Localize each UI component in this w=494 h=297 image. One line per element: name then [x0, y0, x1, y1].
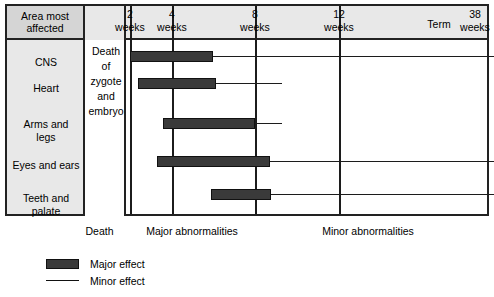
- major-effect-bar-teeth-and-palate: [211, 189, 271, 200]
- row-label-heart: Heart: [7, 82, 85, 95]
- tick-number: 38: [447, 8, 494, 21]
- prenatal-critical-periods-chart: Area most affected Deathofzygoteandembry…: [0, 0, 494, 297]
- tick-number: 8: [227, 8, 283, 21]
- zone-caption-major-abnormalities: Major abnormalities: [122, 225, 262, 237]
- gridline-8wk: [255, 6, 257, 214]
- legend-minor-label: Minor effect: [90, 275, 145, 287]
- death-zone-line: of: [86, 59, 126, 74]
- death-zone-line: zygote: [86, 74, 126, 89]
- row-label-line: Eyes and ears: [7, 159, 85, 172]
- chart-frame: Area most affected Deathofzygoteandembry…: [5, 4, 489, 216]
- chart-legend: Major effect Minor effect: [46, 255, 145, 289]
- legend-item-minor: Minor effect: [46, 272, 145, 289]
- tick-number: 4: [144, 8, 200, 21]
- tick-label-38wk: 38weeks: [447, 8, 494, 34]
- tick-unit: weeks: [311, 21, 367, 34]
- tick-unit: weeks: [227, 21, 283, 34]
- row-label-line: Heart: [7, 82, 85, 95]
- tick-unit: weeks: [144, 21, 200, 34]
- death-zone-line: Death: [86, 44, 126, 59]
- major-effect-bar-eyes-and-ears: [157, 156, 270, 167]
- filled-bar-icon: [46, 259, 79, 269]
- plot-area: 2weeks4weeks8weeks12weeksTerm38weeks: [126, 40, 487, 214]
- legend-major-label: Major effect: [90, 258, 145, 270]
- tick-label-12wk: 12weeks: [311, 8, 367, 34]
- gridline-12wk: [339, 6, 341, 214]
- row-label-eyes-and-ears: Eyes and ears: [7, 159, 85, 172]
- row-label-line: CNS: [7, 56, 85, 69]
- row-label-line: palate: [7, 205, 85, 218]
- corner-header-cell: Area most affected: [7, 6, 85, 40]
- row-label-line: Arms and: [7, 118, 85, 131]
- death-zone-line: and: [86, 89, 126, 104]
- major-effect-bar-arms-and-legs: [163, 118, 255, 129]
- corner-label-line1: Area most: [21, 10, 69, 22]
- row-label-line: Teeth and: [7, 192, 85, 205]
- major-effect-bar-heart: [138, 78, 216, 89]
- tick-unit: weeks: [447, 21, 494, 34]
- zone-caption-minor-abnormalities: Minor abnormalities: [278, 225, 458, 237]
- zone-caption-death: Death: [79, 225, 120, 237]
- row-label-line: legs: [7, 131, 85, 144]
- legend-item-major: Major effect: [46, 255, 145, 272]
- death-zone-line: embryo: [86, 104, 126, 119]
- gridline-2wk: [130, 6, 132, 214]
- tick-label-4wk: 4weeks: [144, 8, 200, 34]
- tick-number: 12: [311, 8, 367, 21]
- death-zone-text: Deathofzygoteandembryo: [86, 44, 126, 119]
- corner-label-line2: affected: [26, 22, 63, 34]
- gridline-4wk: [172, 6, 174, 214]
- major-effect-bar-cns: [130, 51, 213, 62]
- tick-label-8wk: 8weeks: [227, 8, 283, 34]
- row-label-arms-and-legs: Arms andlegs: [7, 118, 85, 143]
- row-label-teeth-and-palate: Teeth andpalate: [7, 192, 85, 217]
- thin-line-icon: [46, 280, 79, 281]
- row-label-cns: CNS: [7, 56, 85, 69]
